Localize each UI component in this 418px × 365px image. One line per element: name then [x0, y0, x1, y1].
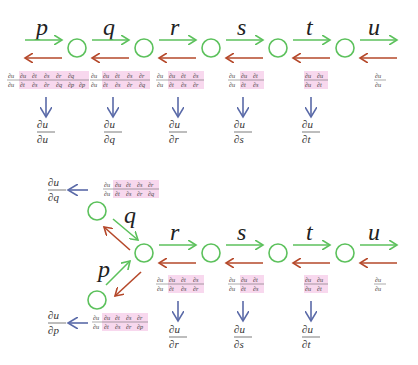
svg-text:∂u: ∂u [375, 72, 381, 79]
node-circle-icon [336, 244, 354, 262]
svg-text:∂u: ∂u [302, 118, 313, 130]
svg-text:∂s: ∂s [115, 81, 121, 88]
gradient-product-s-bottom: ∂u ∂u ∂t ∂u ∂t ∂s [228, 275, 264, 293]
svg-text:∂s: ∂s [126, 190, 132, 197]
svg-text:∂u: ∂u [104, 118, 115, 130]
svg-text:∂u: ∂u [317, 72, 323, 79]
svg-text:∂u: ∂u [37, 118, 48, 130]
node-circle-icon [135, 244, 153, 262]
result-du-du: ∂u ∂u [37, 118, 55, 145]
svg-text:∂u: ∂u [229, 81, 235, 88]
var-u-bottom: u [368, 219, 380, 245]
svg-text:∂u: ∂u [317, 276, 323, 283]
var-r: r [170, 14, 180, 40]
svg-text:∂q: ∂q [56, 81, 62, 88]
svg-text:∂u: ∂u [20, 72, 26, 79]
var-p: p [34, 14, 48, 40]
var-r-bottom: r [170, 219, 180, 245]
svg-text:∂t: ∂t [103, 81, 108, 88]
svg-text:∂t: ∂t [241, 285, 246, 292]
svg-text:∂t: ∂t [302, 338, 311, 350]
branch-result-du-dq: ∂u ∂q [48, 176, 66, 203]
svg-text:∂r: ∂r [169, 133, 179, 145]
var-q: q [103, 14, 115, 40]
svg-text:∂u: ∂u [229, 276, 235, 283]
svg-text:∂s: ∂s [127, 72, 133, 79]
svg-text:∂u: ∂u [229, 72, 235, 79]
var-p-branch: p [96, 256, 110, 282]
svg-text:∂u: ∂u [234, 323, 245, 335]
svg-text:∂u: ∂u [104, 190, 110, 197]
branch-gradient-p: ∂u ∂u ∂t ∂s ∂r ∂u ∂t ∂s ∂r ∂p [92, 313, 148, 331]
svg-text:∂t: ∂t [317, 285, 322, 292]
svg-text:∂u: ∂u [375, 276, 381, 283]
node-circle-icon [68, 39, 86, 57]
node-circle-icon [202, 39, 220, 57]
svg-text:∂s: ∂s [193, 276, 199, 283]
svg-text:∂u: ∂u [8, 72, 14, 79]
svg-text:∂t: ∂t [169, 285, 174, 292]
svg-text:∂u: ∂u [169, 72, 175, 79]
svg-text:∂s: ∂s [193, 72, 199, 79]
bottom-chain: ∂u ∂q ∂u ∂u ∂t ∂s ∂r ∂u ∂t ∂s ∂r ∂q q p [48, 176, 397, 350]
node-circle-icon [88, 202, 106, 220]
svg-text:∂t: ∂t [104, 323, 109, 330]
node-circle-icon [269, 39, 287, 57]
branch-gradient-q: ∂u ∂u ∂t ∂s ∂r ∂u ∂t ∂s ∂r ∂q [103, 180, 159, 198]
svg-text:∂p: ∂p [137, 323, 143, 330]
svg-text:∂u: ∂u [375, 285, 381, 292]
svg-text:∂p: ∂p [48, 324, 59, 336]
svg-text:∂s: ∂s [234, 133, 244, 145]
svg-text:∂u: ∂u [48, 309, 59, 321]
svg-text:∂u: ∂u [157, 276, 163, 283]
svg-text:∂p: ∂p [68, 81, 74, 88]
svg-text:∂u: ∂u [229, 285, 235, 292]
result-du-dt-bottom: ∂u ∂t [302, 323, 320, 350]
result-du-dr: ∂u ∂r [169, 118, 187, 145]
svg-text:∂s: ∂s [126, 314, 132, 321]
svg-text:∂u: ∂u [234, 118, 245, 130]
result-du-ds-bottom: ∂u ∂s [234, 323, 252, 350]
svg-text:∂t: ∂t [181, 276, 186, 283]
svg-text:∂u: ∂u [169, 323, 180, 335]
svg-text:∂t: ∂t [115, 314, 120, 321]
svg-text:∂t: ∂t [20, 81, 25, 88]
svg-text:∂u: ∂u [169, 118, 180, 130]
svg-text:∂t: ∂t [32, 72, 37, 79]
svg-text:∂u: ∂u [305, 276, 311, 283]
node-circle-icon [88, 291, 106, 309]
result-du-dt: ∂u ∂t [302, 118, 320, 145]
svg-text:∂q: ∂q [139, 81, 145, 88]
svg-text:∂q: ∂q [48, 191, 59, 203]
svg-text:∂r: ∂r [148, 181, 154, 188]
svg-text:∂r: ∂r [169, 338, 179, 350]
svg-text:∂q: ∂q [68, 72, 74, 79]
svg-text:∂t: ∂t [241, 81, 246, 88]
svg-text:∂s: ∂s [234, 338, 244, 350]
svg-text:∂t: ∂t [115, 190, 120, 197]
svg-text:∂u: ∂u [37, 133, 48, 145]
svg-text:∂u: ∂u [93, 323, 99, 330]
result-du-dr-bottom: ∂u ∂r [169, 323, 187, 350]
gradient-product-q: ∂u ∂u ∂t ∂s ∂r ∂u ∂t ∂s ∂r ∂q [90, 71, 150, 89]
gradient-product-r: ∂u ∂u ∂t ∂s ∂u ∂t ∂s ∂r [156, 71, 204, 89]
svg-text:∂u: ∂u [48, 176, 59, 188]
gradient-product-p: ∂u ∂u ∂t ∂s ∂r ∂q ∂u ∂t ∂s ∂r ∂q ∂p ∂p [7, 71, 89, 89]
svg-text:∂t: ∂t [169, 81, 174, 88]
svg-text:∂u: ∂u [169, 276, 175, 283]
svg-text:∂u: ∂u [241, 72, 247, 79]
svg-text:∂u: ∂u [157, 72, 163, 79]
svg-text:∂t: ∂t [253, 276, 258, 283]
svg-text:∂r: ∂r [127, 81, 133, 88]
svg-text:∂r: ∂r [193, 81, 199, 88]
gradient-product-u: ∂u ∂u [374, 72, 386, 88]
svg-text:∂r: ∂r [139, 72, 145, 79]
top-chain: p q r s t u ∂u ∂u ∂t [7, 14, 397, 145]
svg-text:∂u: ∂u [157, 285, 163, 292]
svg-text:∂u: ∂u [115, 181, 121, 188]
node-circle-icon [135, 39, 153, 57]
svg-text:∂r: ∂r [44, 81, 50, 88]
var-s: s [237, 14, 246, 40]
result-du-ds: ∂u ∂s [234, 118, 252, 145]
svg-text:∂u: ∂u [305, 81, 311, 88]
